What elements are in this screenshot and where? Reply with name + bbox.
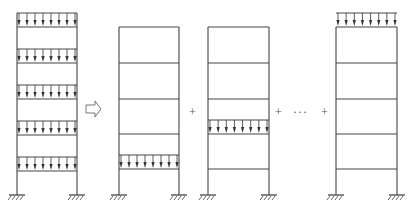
ellipsis: ··· [293,106,308,118]
full-load-frame-distributed-load-floor-2 [17,121,77,134]
plus-sign-1: + [189,106,196,118]
full-load-frame-distributed-load-floor-5 [17,13,77,26]
plus-sign-3: + [321,106,328,118]
plus-sign-2: + [275,106,282,118]
load-case-floor-1-left-fixed-support-icon [110,195,127,200]
full-load-frame-distributed-load-floor-1 [17,157,77,170]
load-case-floor-2-left-fixed-support-icon [199,195,216,200]
load-case-top-floor-distributed-load-floor-5 [336,13,397,26]
load-case-top-floor-right-fixed-support-icon [388,195,405,200]
load-case-floor-1-right-fixed-support-icon [170,195,187,200]
load-case-top-floor-left-fixed-support-icon [327,195,344,200]
equivalence-arrow-icon [86,101,101,117]
load-case-floor-2-distributed-load-floor-2 [208,120,269,133]
full-load-frame-right-fixed-support-icon [68,195,85,200]
full-load-frame-left-fixed-support-icon [8,195,25,200]
superposition-diagram [0,0,418,214]
full-load-frame-distributed-load-floor-3 [17,85,77,98]
load-case-floor-1-distributed-load-floor-1 [119,155,179,168]
load-case-floor-2-right-fixed-support-icon [260,195,277,200]
full-load-frame-distributed-load-floor-4 [17,49,77,62]
